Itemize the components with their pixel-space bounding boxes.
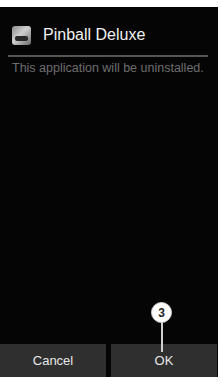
step-callout-badge: 3 <box>151 302 172 323</box>
app-icon <box>12 26 31 45</box>
dialog-header: Pinball Deluxe <box>12 23 145 47</box>
cancel-button[interactable]: Cancel <box>0 344 106 377</box>
uninstall-dialog-screen: Pinball Deluxe This application will be … <box>0 7 218 377</box>
app-title: Pinball Deluxe <box>43 26 145 44</box>
header-divider <box>8 55 208 57</box>
uninstall-message: This application will be uninstalled. <box>12 61 204 75</box>
callout-pointer-line <box>161 322 163 352</box>
ok-button[interactable]: OK <box>111 344 217 377</box>
